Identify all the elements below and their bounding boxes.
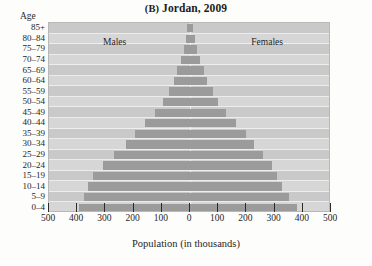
age-tick-40-44: 40–44 [2,117,48,127]
bar-male-55-59 [169,87,190,95]
bar-male-25-29 [114,151,190,159]
x-tick-label: 500 [323,213,337,223]
y-axis-tick-labels: 85+80–8475–7970–7465–6960–6455–5950–5445… [0,22,48,212]
x-tick-mark [133,203,134,212]
plot-area: Males Females [48,22,330,212]
bar-male-10-14 [88,182,190,190]
age-tick-85+: 85+ [2,22,48,32]
bar-male-65-69 [177,66,190,74]
bar-female-15-19 [190,172,277,180]
age-tick-60-64: 60–64 [2,75,48,85]
bar-female-70-74 [190,56,200,64]
age-tick-25-29: 25–29 [2,149,48,159]
x-tick-label: 200 [238,213,252,223]
age-tick-5-9: 5–9 [2,191,48,201]
grid-line [49,54,329,55]
x-tick-label: 100 [154,213,168,223]
bar-female-0-4 [190,204,297,212]
bar-female-65-69 [190,66,204,74]
age-tick-65-69: 65–69 [2,65,48,75]
age-tick-70-74: 70–74 [2,54,48,64]
bar-female-10-14 [190,182,282,190]
x-tick-mark [48,203,49,212]
bar-male-40-44 [145,119,190,127]
bar-male-35-39 [135,130,190,138]
grid-line [49,138,329,139]
bar-female-60-64 [190,77,207,85]
chart-title-text: Jordan, 2009 [162,2,227,14]
grid-line [49,191,329,192]
bar-male-70-74 [181,56,190,64]
bar-female-20-24 [190,161,272,169]
bar-male-5-9 [84,193,190,201]
grid-line [49,159,329,160]
grid-line [49,75,329,76]
grid-line [49,64,329,65]
bar-female-55-59 [190,87,213,95]
x-tick-label: 100 [210,213,224,223]
age-tick-30-34: 30–34 [2,138,48,148]
bar-female-35-39 [190,130,246,138]
x-tick-mark [104,203,105,212]
x-axis-ticks: 5004003002001000100200300400500 [48,212,330,236]
x-tick-mark [274,203,275,212]
x-tick-label: 0 [187,213,192,223]
bar-female-40-44 [190,119,236,127]
x-tick-mark [76,203,77,212]
x-tick-mark [189,203,190,212]
bar-female-45-49 [190,109,226,117]
bar-male-45-49 [155,109,190,117]
x-tick-label: 200 [125,213,139,223]
age-tick-75-79: 75–79 [2,43,48,53]
x-tick-mark [161,203,162,212]
x-tick-mark [330,203,331,212]
age-tick-10-14: 10–14 [2,181,48,191]
bar-male-60-64 [174,77,190,85]
bar-female-50-54 [190,98,218,106]
x-tick-mark [217,203,218,212]
bar-female-5-9 [190,193,289,201]
x-axis-title: Population (in thousands) [0,238,372,249]
grid-line [49,117,329,118]
chart-title: (B) Jordan, 2009 [0,2,372,14]
bar-female-75-79 [190,45,197,53]
panel-letter: (B) [145,3,159,14]
grid-line [49,85,329,86]
grid-line [49,96,329,97]
series-label-females: Females [251,37,283,47]
grid-line [49,106,329,107]
grid-line [49,43,329,44]
grid-line [49,33,329,34]
age-tick-35-39: 35–39 [2,128,48,138]
bar-male-20-24 [103,161,190,169]
bar-female-85+ [190,24,193,32]
age-tick-55-59: 55–59 [2,86,48,96]
age-tick-80-84: 80–84 [2,33,48,43]
x-tick-label: 400 [295,213,309,223]
bar-female-25-29 [190,151,263,159]
grid-line [49,128,329,129]
x-tick-mark [245,203,246,212]
bar-male-0-4 [79,204,190,212]
grid-line [49,170,329,171]
age-tick-20-24: 20–24 [2,160,48,170]
population-pyramid-figure: (B) Jordan, 2009 Age 85+80–8475–7970–746… [0,0,372,266]
age-tick-15-19: 15–19 [2,170,48,180]
grid-line [49,180,329,181]
bar-female-30-34 [190,140,254,148]
bar-male-30-34 [126,140,190,148]
x-tick-label: 500 [41,213,55,223]
age-tick-50-54: 50–54 [2,96,48,106]
bar-male-50-54 [163,98,190,106]
x-tick-label: 400 [69,213,83,223]
bar-male-15-19 [93,172,190,180]
x-tick-label: 300 [97,213,111,223]
age-tick-45-49: 45–49 [2,107,48,117]
x-tick-label: 300 [266,213,280,223]
bar-female-80-84 [190,35,195,43]
x-tick-mark [302,203,303,212]
y-axis-title: Age [20,11,36,21]
series-label-males: Males [103,37,126,47]
grid-line [49,149,329,150]
age-tick-0-4: 0–4 [2,202,48,212]
